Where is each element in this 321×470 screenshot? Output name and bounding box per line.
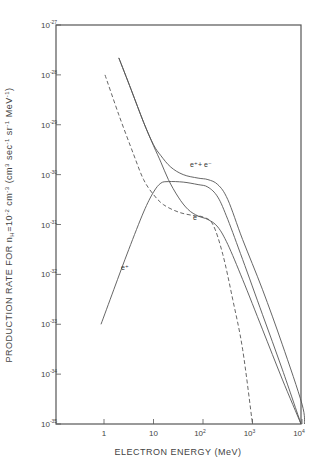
y-tick-label: 10-34	[41, 368, 57, 379]
label-e-sum: e⁺+ e⁻	[190, 161, 212, 168]
x-tick-label: 1	[102, 429, 107, 438]
x-tick-label: 103	[244, 428, 256, 438]
y-tick-label: 10-30	[41, 169, 57, 180]
y-axis-title: PRODUCTION RATE FOR nH=10-2 cm-3 (cm3 se…	[4, 87, 15, 362]
y-tick-label: 10-32	[41, 268, 57, 279]
y-tick-label: 10-28	[41, 69, 57, 80]
curves	[101, 58, 305, 424]
y-axis-ticks: 10-2710-2810-2910-3010-3110-3210-3310-34…	[41, 19, 61, 429]
curve-e-plus	[101, 182, 301, 424]
curve-e-minus	[119, 58, 301, 424]
production-rate-chart: 110102103104 10-2710-2810-2910-3010-3110…	[0, 0, 321, 470]
y-tick-label: 10-27	[41, 19, 57, 30]
y-tick-label: 10-33	[41, 318, 57, 329]
label-e-minus: e⁻	[193, 214, 201, 221]
x-tick-label: 104	[293, 428, 305, 438]
x-axis-title: ELECTRON ENERGY (MeV)	[115, 447, 242, 457]
x-axis-ticks: 110102103104	[102, 419, 305, 438]
plot-frame	[56, 25, 301, 424]
label-e-plus: e⁺	[121, 264, 129, 271]
curve-e-sum	[119, 58, 305, 424]
x-tick-label: 10	[149, 429, 158, 438]
y-tick-label: 10-35	[41, 418, 57, 429]
x-tick-label: 102	[194, 428, 206, 438]
y-tick-label: 10-31	[41, 219, 57, 230]
y-tick-label: 10-29	[41, 119, 57, 130]
